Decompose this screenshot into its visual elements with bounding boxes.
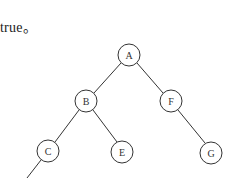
edge-b-c (55, 110, 79, 142)
node-label: G (207, 148, 214, 159)
node-label: A (125, 50, 133, 61)
tree-node-f: F (160, 90, 182, 112)
node-label: F (168, 96, 174, 107)
edge-f-g (178, 110, 205, 143)
edge-a-f (137, 63, 163, 93)
tree-node-e: E (111, 141, 133, 163)
tree-node-b: B (75, 90, 97, 112)
node-label: B (83, 96, 90, 107)
tree-node-a: A (118, 44, 140, 66)
tree-node-c: C (37, 140, 59, 162)
edge-b-e (93, 110, 117, 142)
node-label: E (119, 147, 125, 158)
tree-node-g: G (200, 142, 222, 164)
binary-tree-diagram: A B F C E G (0, 0, 227, 178)
node-label: C (45, 146, 52, 157)
edge-c-child (27, 160, 41, 178)
edge-a-b (94, 63, 121, 93)
